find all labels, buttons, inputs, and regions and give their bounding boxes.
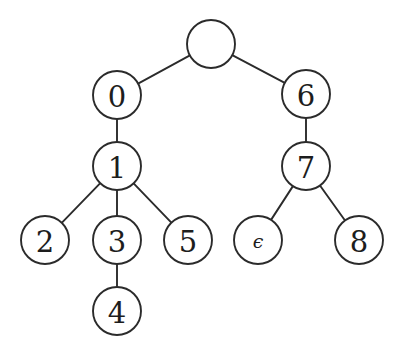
- tree-node-n4[interactable]: 4: [93, 287, 141, 335]
- tree-node-n6[interactable]: 6: [282, 70, 330, 118]
- tree-node-n7[interactable]: 7: [282, 142, 330, 190]
- tree-edge-n1-to-n5: [134, 183, 172, 222]
- tree-edge-n1-to-n2: [62, 183, 101, 223]
- tree-node-root[interactable]: [187, 20, 235, 68]
- tree-node-label-neps: ϵ: [253, 230, 264, 252]
- tree-node-label-n4: 4: [108, 296, 126, 330]
- tree-node-label-n8: 8: [350, 225, 368, 259]
- tree-node-n5[interactable]: 5: [164, 216, 212, 264]
- tree-edge-n7-to-n8: [320, 186, 345, 221]
- tree-edge-root-to-n6: [232, 55, 285, 83]
- tree-node-label-n3: 3: [108, 225, 126, 259]
- tree-edge-root-to-n0: [138, 55, 190, 83]
- tree-node-label-n6: 6: [297, 79, 315, 113]
- tree-node-n1[interactable]: 1: [93, 142, 141, 190]
- tree-node-label-n1: 1: [108, 151, 126, 185]
- node-layer: 0617235ϵ84: [21, 20, 383, 335]
- tree-node-n3[interactable]: 3: [93, 216, 141, 264]
- tree-node-n0[interactable]: 0: [93, 71, 141, 119]
- tree-edge-n7-to-neps: [271, 186, 293, 220]
- tree-canvas: 0617235ϵ84: [0, 0, 398, 356]
- tree-node-circle-root[interactable]: [187, 20, 235, 68]
- tree-diagram: 0617235ϵ84: [0, 0, 398, 356]
- tree-node-label-n5: 5: [179, 225, 197, 259]
- tree-node-label-n0: 0: [108, 80, 126, 114]
- tree-node-n8[interactable]: 8: [335, 216, 383, 264]
- tree-node-neps[interactable]: ϵ: [234, 216, 282, 264]
- tree-node-label-n2: 2: [36, 225, 54, 259]
- tree-node-label-n7: 7: [297, 151, 315, 185]
- tree-node-n2[interactable]: 2: [21, 216, 69, 264]
